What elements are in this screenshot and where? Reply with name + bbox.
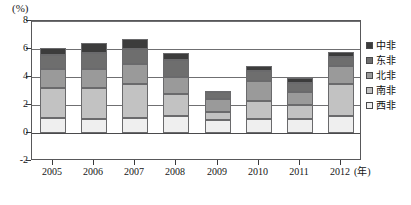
x-tick-2008 — [175, 160, 176, 165]
bar-segment-2008-西非 — [163, 116, 189, 133]
bar-segment-2011-东非 — [287, 83, 313, 93]
bar-segment-2012-南非 — [328, 84, 354, 116]
bar-segment-2008-北非 — [163, 77, 189, 94]
bar-segment-2009-北非 — [205, 99, 231, 112]
legend-swatch-icon — [366, 57, 373, 64]
legend-item-东非[interactable]: 东非 — [366, 53, 411, 68]
bar-segment-2011-北非 — [287, 92, 313, 105]
bar-segment-2007-东非 — [122, 49, 148, 64]
bar-segment-2006-中非 — [81, 43, 107, 53]
bar-segment-2012-北非 — [328, 66, 354, 84]
y-tick-label-4: 4 — [6, 71, 28, 81]
bar-segment-2008-南非 — [163, 94, 189, 116]
legend-swatch-icon — [366, 72, 373, 79]
bar-segment-2010-西非 — [246, 119, 272, 133]
bar-segment-2012-东非 — [328, 57, 354, 65]
x-tick-label-2006: 2006 — [73, 166, 113, 178]
bar-2010 — [246, 21, 272, 161]
legend-item-label: 东非 — [376, 56, 396, 66]
bar-segment-2005-南非 — [40, 88, 66, 117]
x-tick-2006 — [93, 160, 94, 165]
y-tick-label-6: 6 — [6, 43, 28, 53]
bar-segment-2009-东非 — [205, 92, 231, 99]
bar-segment-2006-东非 — [81, 53, 107, 68]
x-tick-2012 — [340, 160, 341, 165]
bar-2005 — [40, 21, 66, 161]
y-axis-unit-label: (%) — [12, 2, 29, 14]
y-tick-label-0: 0 — [6, 127, 28, 137]
legend-item-西非[interactable]: 西非 — [366, 98, 411, 113]
x-tick-2011 — [299, 160, 300, 165]
x-tick-label-2009: 2009 — [197, 166, 237, 178]
x-tick-2007 — [134, 160, 135, 165]
x-tick-2010 — [258, 160, 259, 165]
y-tick-label-8: 8 — [6, 15, 28, 25]
bar-segment-2011-中非 — [287, 78, 313, 82]
bar-segment-2006-南非 — [81, 88, 107, 119]
y-tick-label--2: -2 — [6, 155, 28, 165]
y-tick-label-2: 2 — [6, 99, 28, 109]
x-tick-2005 — [52, 160, 53, 165]
bar-segment-2007-西非 — [122, 118, 148, 133]
x-tick-label-2008: 2008 — [155, 166, 195, 178]
bar-segment-2008-东非 — [163, 60, 189, 77]
x-tick-label-2011: 2011 — [279, 166, 319, 178]
bar-2006 — [81, 21, 107, 161]
bar-segment-2005-东非 — [40, 55, 66, 69]
bar-segment-2009-南非 — [205, 112, 231, 120]
bar-segment-2012-中非 — [328, 52, 354, 58]
bar-2009 — [205, 21, 231, 161]
x-axis-unit-label: (年) — [354, 166, 371, 178]
legend-item-label: 北非 — [376, 71, 396, 81]
bar-segment-2010-南非 — [246, 101, 272, 119]
plot-area — [31, 20, 361, 160]
bar-segment-2010-中非 — [246, 66, 272, 72]
legend-item-label: 中非 — [376, 41, 396, 51]
bar-segment-2006-北非 — [81, 69, 107, 89]
bar-segment-2009-西非 — [205, 120, 231, 133]
x-tick-label-2010: 2010 — [238, 166, 278, 178]
legend-swatch-icon — [366, 102, 373, 109]
bar-segment-2011-西非 — [287, 119, 313, 133]
bar-2007 — [122, 21, 148, 161]
bar-2011 — [287, 21, 313, 161]
bar-segment-2011-南非 — [287, 105, 313, 119]
bar-2012 — [328, 21, 354, 161]
bar-2008 — [163, 21, 189, 161]
x-tick-label-2007: 2007 — [114, 166, 154, 178]
bar-segment-2007-南非 — [122, 84, 148, 118]
bar-segment-2009-中非 — [205, 91, 231, 93]
x-tick-2009 — [217, 160, 218, 165]
bar-segment-2005-西非 — [40, 118, 66, 133]
bar-segment-2010-北非 — [246, 81, 272, 101]
bar-segment-2012-西非 — [328, 116, 354, 133]
legend-item-北非[interactable]: 北非 — [366, 68, 411, 83]
legend-item-label: 西非 — [376, 101, 396, 111]
bar-segment-2008-中非 — [163, 53, 189, 60]
legend-item-label: 南非 — [376, 86, 396, 96]
legend-swatch-icon — [366, 87, 373, 94]
legend-swatch-icon — [366, 42, 373, 49]
bar-segment-2007-北非 — [122, 64, 148, 84]
x-tick-label-2005: 2005 — [32, 166, 72, 178]
legend: 中非东非北非南非西非 — [366, 38, 411, 113]
legend-item-南非[interactable]: 南非 — [366, 83, 411, 98]
bar-segment-2006-西非 — [81, 119, 107, 133]
bar-segment-2010-东非 — [246, 71, 272, 81]
bar-segment-2005-中非 — [40, 48, 66, 55]
bar-segment-2007-中非 — [122, 39, 148, 49]
bar-segment-2005-北非 — [40, 69, 66, 89]
legend-item-中非[interactable]: 中非 — [366, 38, 411, 53]
stacked-bar-chart: (%) -202468 2005200620072008200920102011… — [0, 0, 411, 205]
